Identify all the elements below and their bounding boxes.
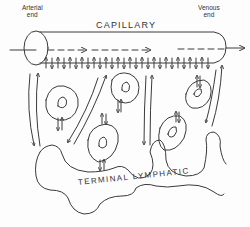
cell-1 xyxy=(46,86,78,130)
arterial-end-label: Arterial end xyxy=(22,4,43,18)
venous-label-line1: Venous xyxy=(198,4,220,11)
cell-3 xyxy=(186,76,212,108)
arterial-label-line2: end xyxy=(22,11,43,18)
capillary-label: CAPILLARY xyxy=(96,20,156,30)
arterial-label-line1: Arterial xyxy=(22,4,43,11)
tissue-cells xyxy=(46,73,211,170)
capillary-lymphatic-diagram: Arterial end CAPILLARY Venous end TERMIN… xyxy=(0,0,250,227)
cell-4 xyxy=(88,114,119,170)
venous-end-label: Venous end xyxy=(198,4,220,18)
venous-label-line2: end xyxy=(198,11,220,18)
flow-arrow xyxy=(10,48,244,50)
cell-5 xyxy=(159,112,187,150)
cell-2 xyxy=(111,73,139,112)
diagram-drawing xyxy=(0,0,250,227)
